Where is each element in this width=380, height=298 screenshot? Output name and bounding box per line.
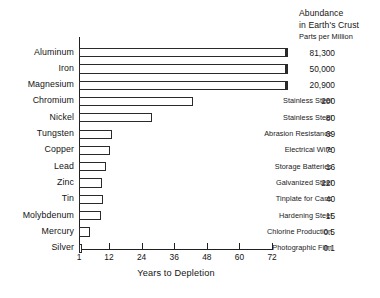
abundance-value-silver: 0.1 <box>299 243 335 253</box>
category-label-aluminum: Aluminum <box>34 47 74 57</box>
abundance-value-magnesium: 20,900 <box>299 80 335 90</box>
chart-row: MolybdenumHardening Steel15 <box>0 208 380 224</box>
category-label-chromium: Chromium <box>33 95 74 105</box>
chart-row: Iron50,000 <box>0 61 380 77</box>
category-label-molybdenum: Molybdenum <box>23 210 74 220</box>
x-axis-title: Years to Depletion <box>79 268 273 278</box>
abundance-value-molybdenum: 15 <box>299 211 335 221</box>
category-label-mercury: Mercury <box>42 226 74 236</box>
abundance-value-mercury: 0.5 <box>299 227 335 237</box>
bar-mercury <box>79 227 90 236</box>
abundance-header-line-1: Abundance <box>299 8 379 20</box>
abundance-value-lead: 16 <box>299 162 335 172</box>
chart-row: CopperElectrical Wire70 <box>0 142 380 158</box>
bar-zinc <box>79 178 102 187</box>
category-label-silver: Silver <box>51 242 74 252</box>
abundance-value-copper: 70 <box>299 145 335 155</box>
category-label-lead: Lead <box>54 161 74 171</box>
category-label-copper: Copper <box>45 144 74 154</box>
bar-aluminum <box>79 48 288 57</box>
bar-chromium <box>79 97 193 106</box>
abundance-value-aluminum: 81,300 <box>299 48 335 58</box>
abundance-value-nickel: 80 <box>299 113 335 123</box>
bar-magnesium <box>79 81 288 90</box>
chart-row: Aluminum81,300 <box>0 45 380 61</box>
bar-copper <box>79 146 110 155</box>
category-label-tungsten: Tungsten <box>37 128 74 138</box>
abundance-value-tin: 40 <box>299 194 335 204</box>
abundance-header-line-2: in Earth's Crust <box>299 20 379 32</box>
chart-row: Magnesium20,900 <box>0 77 380 93</box>
depletion-chart: Abundance in Earth's Crust Parts per Mil… <box>0 0 380 298</box>
bar-lead <box>79 162 106 171</box>
chart-row: MercuryChlorine Production0.5 <box>0 224 380 240</box>
bar-nickel <box>79 113 152 122</box>
abundance-value-tungsten: 69 <box>299 129 335 139</box>
bar-silver <box>79 244 82 253</box>
category-label-iron: Iron <box>58 63 74 73</box>
bar-molybdenum <box>79 211 101 220</box>
chart-row: ChromiumStainless Steel200 <box>0 93 380 109</box>
chart-row: NickelStainless Steel80 <box>0 110 380 126</box>
bar-iron <box>79 64 288 73</box>
chart-row: TungstenAbrasion Resistance69 <box>0 126 380 142</box>
abundance-header: Abundance in Earth's Crust Parts per Mil… <box>299 8 379 43</box>
bar-tin <box>79 195 103 204</box>
category-label-nickel: Nickel <box>49 112 74 122</box>
chart-row: SilverPhotographic Film0.1 <box>0 240 380 256</box>
abundance-value-zinc: 220 <box>299 178 335 188</box>
bar-tungsten <box>79 130 112 139</box>
chart-row: ZincGalvanized Steel220 <box>0 175 380 191</box>
chart-row: LeadStorage Batteries16 <box>0 159 380 175</box>
abundance-value-chromium: 200 <box>299 96 335 106</box>
abundance-header-line-3: Parts per Million <box>299 31 379 43</box>
category-label-magnesium: Magnesium <box>28 79 74 89</box>
category-label-zinc: Zinc <box>57 177 74 187</box>
category-label-tin: Tin <box>62 193 74 203</box>
chart-row: TinTinplate for Cans40 <box>0 191 380 207</box>
abundance-value-iron: 50,000 <box>299 64 335 74</box>
